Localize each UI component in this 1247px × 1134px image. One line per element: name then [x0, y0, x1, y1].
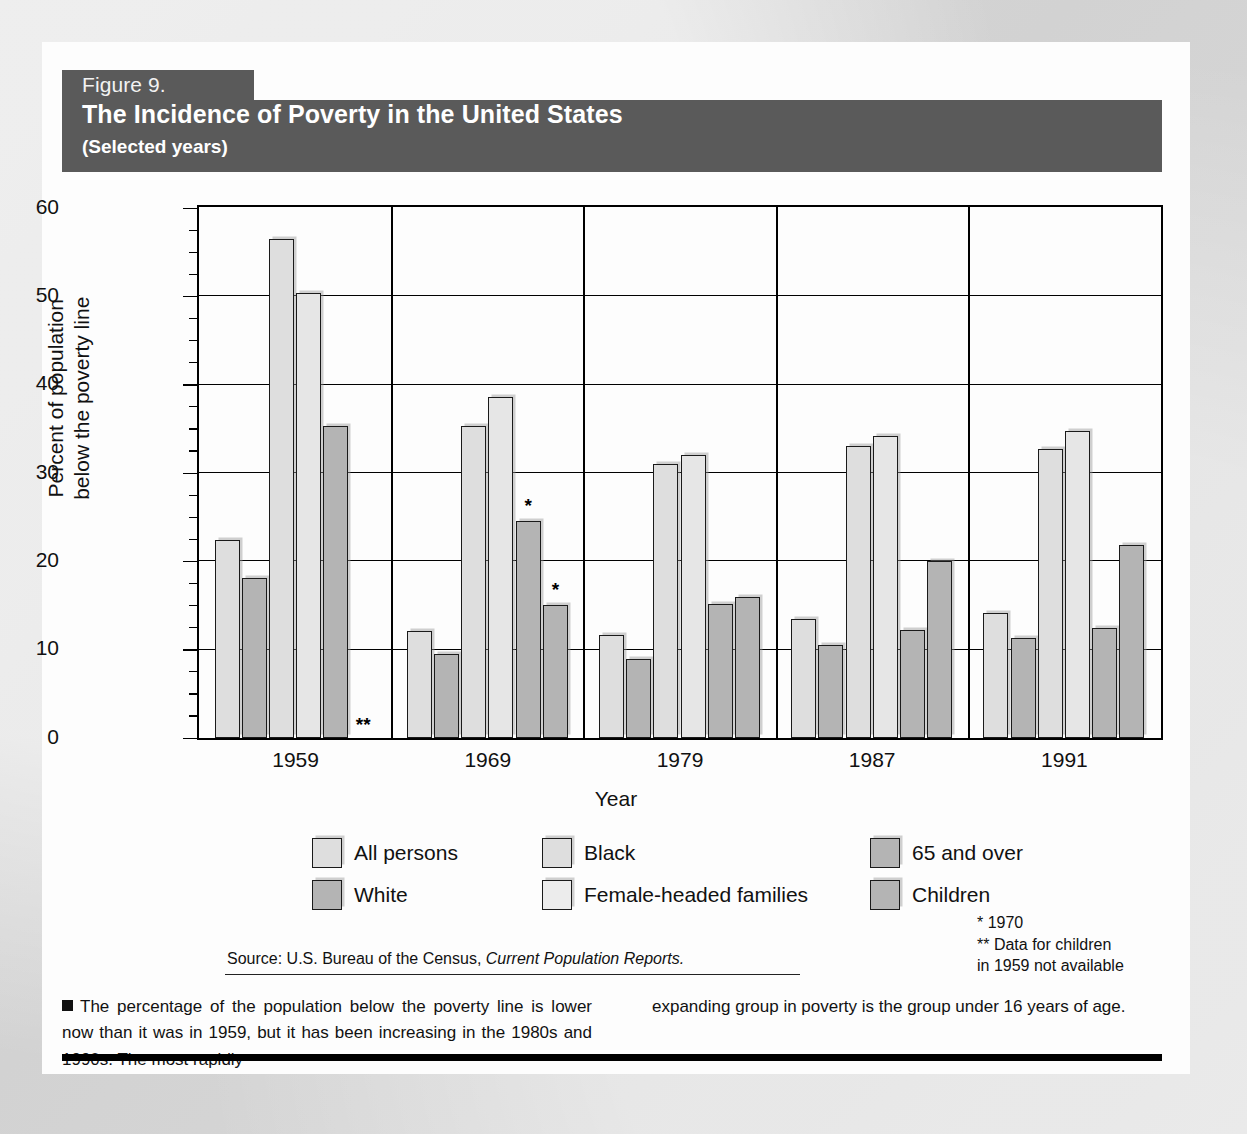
bar-1969-children: [543, 605, 568, 738]
x-axis-label: Year: [42, 787, 1190, 811]
legend-swatch-female-headed-families: [542, 880, 572, 910]
y-tick-minor-25: [189, 517, 197, 518]
legend-item-65-and-over: 65 and over: [870, 838, 1023, 868]
y-tick-minor-12.5: [189, 627, 197, 628]
y-tick-minor-5: [189, 693, 197, 694]
legend-item-children: Children: [870, 880, 990, 910]
bar-1991-black: [1038, 449, 1063, 738]
plot-frame: ****: [197, 205, 1163, 740]
legend-item-female-headed-families: Female-headed families: [542, 880, 808, 910]
bar-group-1959: **: [199, 207, 391, 738]
y-tick-minor-42.5: [189, 362, 197, 363]
bar-1979-white: [626, 659, 651, 739]
source-prefix: Source: U.S. Bureau of the Census,: [227, 950, 486, 967]
missing-data-marker-1959-children: **: [351, 714, 376, 736]
legend-label-black: Black: [584, 841, 635, 865]
bar-1987-black: [846, 446, 871, 738]
y-tick-label-40: 40: [0, 371, 59, 395]
bar-1969-white: [434, 654, 459, 738]
y-tick-minor-57.5: [189, 230, 197, 231]
bar-1959-white: [242, 578, 267, 738]
bar-1979-all-persons: [599, 635, 624, 738]
y-tick-major-10: [183, 649, 197, 651]
legend-label-white: White: [354, 883, 408, 907]
figure-card: Figure 9. The Incidence of Poverty in th…: [42, 42, 1190, 1074]
legend-item-white: White: [312, 880, 408, 910]
caption-column-left: The percentage of the population below t…: [62, 994, 592, 1073]
y-tick-major-60: [183, 208, 197, 210]
chart-area: Percent of population below the poverty …: [42, 42, 1190, 1074]
bar-1987-65-and-over: [900, 630, 925, 738]
y-tick-minor-27.5: [189, 495, 197, 496]
legend-swatch-white: [312, 880, 342, 910]
legend-swatch-children: [870, 880, 900, 910]
y-tick-major-20: [183, 561, 197, 563]
bar-1987-children: [927, 561, 952, 738]
x-tick-label-1979: 1979: [584, 748, 776, 772]
source-underline: [225, 974, 800, 975]
y-tick-label-30: 30: [0, 460, 59, 484]
y-tick-minor-47.5: [189, 318, 197, 319]
bar-1987-female-headed-families: [873, 436, 898, 738]
legend-label-children: Children: [912, 883, 990, 907]
bar-1991-all-persons: [983, 613, 1008, 738]
bar-1991-children: [1119, 545, 1144, 738]
bar-group-1969: **: [391, 207, 583, 738]
legend-item-black: Black: [542, 838, 635, 868]
source-publication: Current Population Reports.: [486, 950, 684, 967]
legend-item-all-persons: All persons: [312, 838, 458, 868]
bar-1969-65-and-over: [516, 521, 541, 738]
bar-group-1991: [968, 207, 1160, 738]
bar-1959-all-persons: [215, 540, 240, 738]
bar-1979-children: [735, 597, 760, 738]
bar-1979-female-headed-families: [681, 455, 706, 738]
x-tick-label-1991: 1991: [968, 748, 1160, 772]
bar-1991-65-and-over: [1092, 628, 1117, 738]
x-tick-label-1987: 1987: [776, 748, 968, 772]
square-bullet-icon: [62, 1000, 73, 1011]
y-tick-major-30: [183, 473, 197, 475]
footnote-double-star-line2: in 1959 not available: [977, 955, 1192, 977]
y-axis-label-line2: below the poverty line: [70, 297, 93, 500]
caption-column-right: expanding group in poverty is the group …: [652, 994, 1172, 1020]
legend-swatch-black: [542, 838, 572, 868]
y-tick-minor-37.5: [189, 406, 197, 407]
bar-1969-black: [461, 426, 486, 738]
y-tick-minor-7.5: [189, 671, 197, 672]
bar-1987-white: [818, 645, 843, 738]
y-tick-major-40: [183, 384, 197, 386]
bar-annotation-1969-children: *: [543, 580, 568, 599]
bar-1969-female-headed-families: [488, 397, 513, 738]
y-tick-major-0: [183, 738, 197, 740]
footnote-single-star: * 1970: [977, 912, 1192, 934]
x-tick-label-1969: 1969: [392, 748, 584, 772]
legend-label-female-headed-families: Female-headed families: [584, 883, 808, 907]
y-tick-minor-2.5: [189, 715, 197, 716]
footnotes: * 1970 ** Data for children in 1959 not …: [977, 912, 1192, 977]
chart-legend: All personsWhiteBlackFemale-headed famil…: [42, 832, 1190, 924]
x-tick-label-1959: 1959: [200, 748, 392, 772]
bar-1959-65-and-over: [323, 426, 348, 738]
bar-1969-all-persons: [407, 631, 432, 738]
bar-1979-65-and-over: [708, 604, 733, 738]
y-tick-label-50: 50: [0, 283, 59, 307]
bar-1959-female-headed-families: [296, 293, 321, 738]
y-tick-minor-52.5: [189, 274, 197, 275]
source-note: Source: U.S. Bureau of the Census, Curre…: [227, 950, 684, 968]
y-tick-minor-55: [189, 252, 197, 253]
legend-label-65-and-over: 65 and over: [912, 841, 1023, 865]
y-tick-major-50: [183, 296, 197, 298]
y-tick-label-10: 10: [0, 636, 59, 660]
y-tick-minor-35: [189, 428, 197, 429]
y-tick-minor-32.5: [189, 450, 197, 451]
y-tick-minor-45: [189, 340, 197, 341]
bar-1991-female-headed-families: [1065, 431, 1090, 738]
bar-1959-black: [269, 239, 294, 738]
y-tick-label-60: 60: [0, 195, 59, 219]
legend-swatch-65-and-over: [870, 838, 900, 868]
legend-swatch-all-persons: [312, 838, 342, 868]
legend-label-all-persons: All persons: [354, 841, 458, 865]
bar-annotation-1969-65-and-over: *: [516, 496, 541, 515]
y-tick-label-20: 20: [0, 548, 59, 572]
y-tick-label-0: 0: [0, 725, 59, 749]
